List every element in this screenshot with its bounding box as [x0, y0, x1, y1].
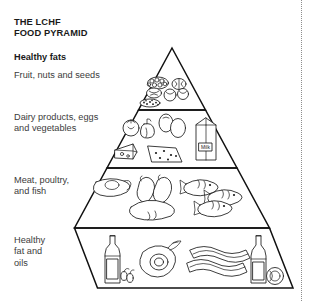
walnut-icon: [172, 79, 186, 90]
tomato-icon: [123, 120, 139, 136]
berries-icon: [147, 77, 168, 89]
dotted-divider-rule: [301, 0, 302, 301]
oil-bottle-icon: [251, 236, 266, 283]
tier-3-group: [75, 168, 270, 228]
tier-1-apex-group: [139, 48, 206, 110]
pyramid-diagram: Milk: [0, 0, 314, 301]
bell-pepper-icon: [140, 119, 154, 138]
milk-carton-icon: Milk: [196, 118, 216, 160]
svg-text:Milk: Milk: [201, 144, 210, 150]
cheese-slice-icon: [148, 146, 182, 162]
almonds-icon: [147, 88, 162, 98]
avocado-icon: [140, 241, 181, 277]
chicken-drumsticks-icon: [137, 175, 172, 203]
steak-icon: [93, 179, 131, 197]
whole-chicken-icon: [129, 200, 174, 220]
olives-icon: [121, 268, 134, 282]
seeds-icon: [140, 99, 160, 107]
olive-oil-bottle-icon: [105, 236, 120, 283]
nuts-icon: [164, 89, 189, 102]
lchf-food-pyramid-infographic: THE LCHF FOOD PYRAMID Healthy fats Fruit…: [0, 0, 314, 301]
butter-icon: [267, 268, 284, 285]
eggs-icon: [159, 114, 186, 138]
bacon-strips-icon: [187, 247, 250, 277]
tier-4-base-group: [75, 228, 294, 288]
tier-2-group: Milk: [107, 110, 237, 168]
fish-icon-3: [194, 201, 232, 217]
